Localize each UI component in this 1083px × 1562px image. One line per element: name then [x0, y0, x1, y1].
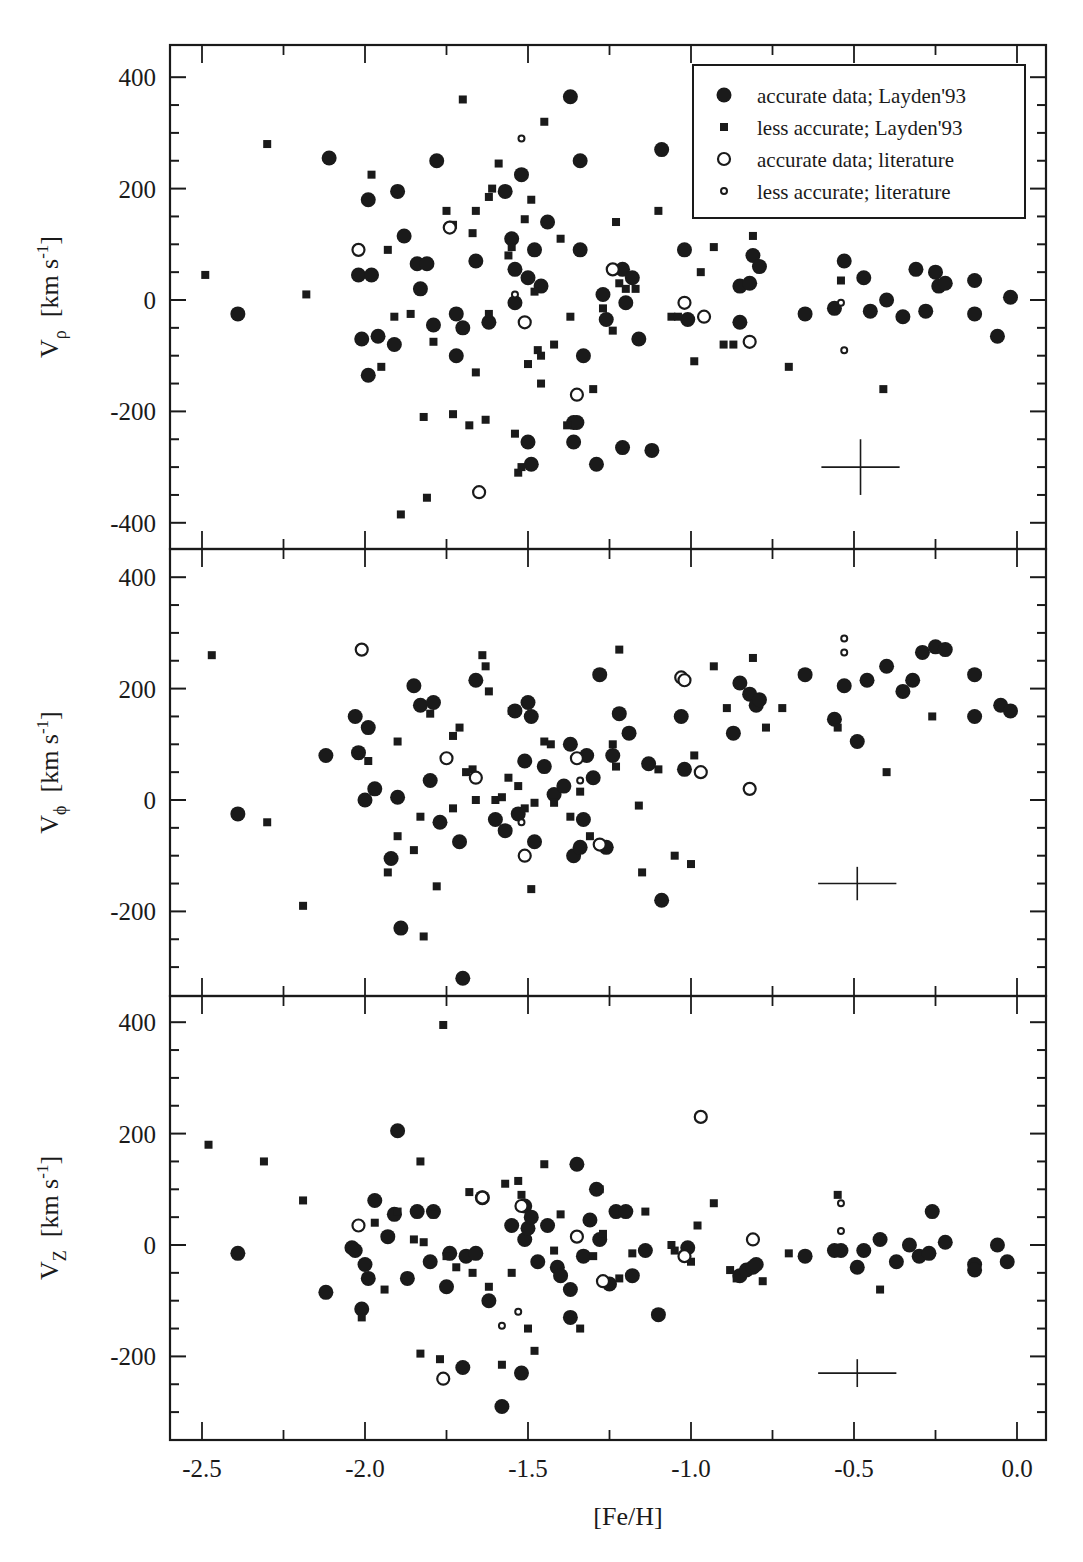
y-tick-label: -400	[110, 510, 156, 537]
data-point	[594, 839, 606, 851]
data-point	[455, 1360, 470, 1375]
scatter-plot-stack: 4002000-200-400Vρ [km s-1]4002000-200Vϕ …	[0, 0, 1083, 1562]
data-point	[596, 1185, 604, 1193]
data-point	[302, 290, 310, 298]
data-point	[641, 756, 656, 771]
data-point	[762, 724, 770, 732]
data-point	[726, 726, 741, 741]
data-point	[423, 773, 438, 788]
series-small-open-diamond	[518, 635, 847, 825]
data-point	[390, 1123, 405, 1138]
data-point	[394, 1208, 402, 1216]
data-point	[573, 153, 588, 168]
data-point	[967, 273, 982, 288]
series-filled-square	[208, 646, 936, 941]
data-point	[449, 732, 457, 740]
data-point	[352, 1220, 364, 1232]
data-point	[508, 243, 516, 251]
data-point	[605, 748, 620, 763]
data-point	[504, 251, 512, 259]
data-point	[698, 311, 710, 323]
data-point	[469, 1269, 477, 1277]
data-point	[384, 851, 399, 866]
data-point	[566, 813, 574, 821]
data-point	[400, 1271, 415, 1286]
data-point	[576, 812, 591, 827]
data-point	[573, 840, 588, 855]
legend-marker-open-circle	[718, 153, 730, 165]
data-point	[377, 363, 385, 371]
data-point	[651, 1307, 666, 1322]
data-point	[690, 751, 698, 759]
data-point	[677, 242, 692, 257]
data-point	[540, 118, 548, 126]
data-point	[390, 184, 405, 199]
data-point	[540, 1160, 548, 1168]
data-point	[678, 297, 690, 309]
data-point	[452, 1263, 460, 1271]
data-point	[876, 1286, 884, 1294]
data-point	[432, 815, 447, 830]
legend-marker-small-open-diamond	[721, 188, 727, 194]
data-point	[507, 262, 522, 277]
data-point	[618, 295, 633, 310]
data-point	[628, 1249, 636, 1257]
data-point	[521, 435, 536, 450]
legend-label: less accurate; literature	[757, 180, 951, 204]
data-point	[576, 788, 584, 796]
data-point	[465, 1188, 473, 1196]
data-point	[557, 1210, 565, 1218]
data-point	[615, 1274, 623, 1282]
data-point	[557, 235, 565, 243]
data-point	[459, 95, 467, 103]
data-point	[468, 1246, 483, 1261]
y-axis-title: VZ [km s-1]	[33, 1156, 70, 1280]
data-point	[710, 1199, 718, 1207]
data-point	[444, 222, 456, 234]
figure: 4002000-200-400Vρ [km s-1]4002000-200Vϕ …	[0, 0, 1083, 1562]
data-point	[938, 642, 953, 657]
data-point	[589, 385, 597, 393]
data-point	[527, 885, 535, 893]
data-point	[508, 1269, 516, 1277]
y-tick-label: 0	[144, 787, 157, 814]
data-point	[449, 410, 457, 418]
data-point	[394, 832, 402, 840]
data-point	[856, 270, 871, 285]
legend-label: accurate data; Layden'93	[757, 84, 966, 108]
data-point	[361, 192, 376, 207]
data-point	[473, 486, 485, 498]
data-point	[834, 1191, 842, 1199]
data-point	[470, 772, 482, 784]
data-point	[599, 1230, 607, 1238]
data-point	[609, 740, 617, 748]
data-point	[485, 193, 493, 201]
data-point	[361, 720, 376, 735]
data-point	[586, 832, 594, 840]
data-point	[472, 207, 480, 215]
x-axis-title: [Fe/H]	[593, 1502, 662, 1531]
data-point	[967, 709, 982, 724]
x-tick-label: 0.0	[1001, 1455, 1032, 1482]
data-point	[426, 695, 441, 710]
data-point	[677, 762, 692, 777]
x-axis: -2.5-2.0-1.5-1.0-0.50.0[Fe/H]	[182, 1455, 1032, 1531]
y-tick-label: -200	[110, 898, 156, 925]
data-point	[550, 799, 558, 807]
data-point	[638, 868, 646, 876]
data-point	[433, 882, 441, 890]
data-point	[512, 291, 518, 297]
y-tick-label: 400	[119, 1009, 157, 1036]
data-point	[521, 695, 536, 710]
data-point	[710, 662, 718, 670]
data-point	[720, 341, 728, 349]
data-point	[413, 698, 428, 713]
data-point	[850, 1260, 865, 1275]
data-point	[449, 348, 464, 363]
data-point	[390, 313, 398, 321]
data-point	[905, 673, 920, 688]
data-point	[582, 1212, 597, 1227]
data-point	[556, 779, 571, 794]
data-point	[576, 1325, 584, 1333]
data-point	[456, 724, 464, 732]
